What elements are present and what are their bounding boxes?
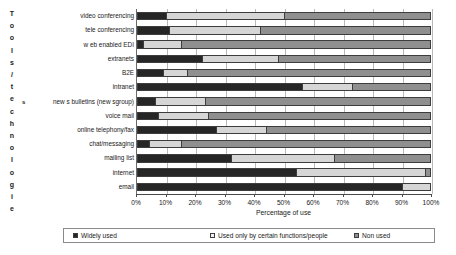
y-axis-title-letter: / <box>11 69 13 81</box>
bar-row <box>137 55 431 63</box>
bar-segment <box>402 183 431 191</box>
bar-segment <box>163 69 187 77</box>
x-axis-tick <box>225 194 226 197</box>
plot-area <box>136 9 431 194</box>
bar-segment <box>181 140 431 148</box>
bar-segment <box>296 168 425 176</box>
bar-row <box>137 69 431 77</box>
y-axis-title-letter: s <box>10 57 14 69</box>
legend-label: Non used <box>362 232 390 239</box>
bar-segment <box>137 183 402 191</box>
x-axis-tick-label: 100% <box>423 199 440 206</box>
x-axis-tick-label: 50% <box>277 199 290 206</box>
legend-swatch-icon <box>354 233 359 238</box>
bar-segment <box>278 55 431 63</box>
bar-segment <box>334 154 431 162</box>
bar-segment <box>202 55 278 63</box>
x-axis-tick <box>431 194 432 197</box>
bar-segment <box>425 168 431 176</box>
bar-row <box>137 140 431 148</box>
y-axis-title-letter: o <box>10 20 14 32</box>
bar-segment <box>166 12 284 20</box>
x-axis-tick-label: 30% <box>218 199 231 206</box>
x-axis-tick <box>284 194 285 197</box>
bar-segment <box>216 126 266 134</box>
y-axis-category-label: voice mail <box>18 112 134 120</box>
bar-segment <box>137 112 158 120</box>
y-axis-category-label: internet <box>18 169 134 177</box>
bar-segment <box>352 83 431 91</box>
bar-row <box>137 26 431 34</box>
bar-segment <box>169 26 260 34</box>
legend-swatch-icon <box>210 233 215 238</box>
bar-segment <box>137 168 296 176</box>
y-axis-title-letter: o <box>10 167 14 179</box>
legend-item: Non used <box>354 232 390 239</box>
bar-row <box>137 168 431 176</box>
bar-segment <box>137 83 302 91</box>
bar-row <box>137 183 431 191</box>
bar-segment <box>137 154 231 162</box>
y-axis-title-letter: l <box>11 154 13 166</box>
y-axis-title-letter: T <box>10 8 14 20</box>
bar-segment <box>266 126 431 134</box>
x-axis-tick <box>372 194 373 197</box>
bar-series-container <box>137 9 431 194</box>
y-axis-title-letter: h <box>10 118 14 130</box>
bar-segment <box>208 112 431 120</box>
bar-segment <box>137 126 216 134</box>
bar-segment <box>181 40 431 48</box>
bar-row <box>137 112 431 120</box>
bar-row <box>137 126 431 134</box>
y-axis-category-label: w eb enabled EDI <box>18 41 134 49</box>
bar-segment <box>158 112 208 120</box>
legend-label: Used only by certain functions/people <box>218 232 328 239</box>
bar-segment <box>143 40 181 48</box>
bar-row <box>137 83 431 91</box>
bar-segment <box>284 12 431 20</box>
y-axis-category-label: tele conferencing <box>18 26 134 34</box>
x-axis-tick-label: 60% <box>306 199 319 206</box>
bar-segment <box>137 140 149 148</box>
y-axis-title: Tools/technologie <box>5 8 19 215</box>
bar-segment <box>137 69 163 77</box>
bar-row <box>137 154 431 162</box>
x-axis-tick-label: 0% <box>131 199 141 206</box>
bar-row <box>137 12 431 20</box>
y-axis-category-label: new s bulletins (new sgroup) <box>18 98 134 106</box>
bar-segment <box>231 154 334 162</box>
stacked-bar-chart: Tools/technologie s video conferencingte… <box>0 0 456 255</box>
bar-segment <box>205 97 431 105</box>
y-axis-title-letter: c <box>10 106 14 118</box>
x-axis-tick-label: 20% <box>188 199 201 206</box>
bar-segment <box>260 26 431 34</box>
x-axis-tick <box>313 194 314 197</box>
bar-segment <box>187 69 431 77</box>
gridline <box>432 9 433 194</box>
y-axis-title-letter: o <box>10 32 14 44</box>
bar-segment <box>137 97 155 105</box>
y-axis-title-letter: g <box>10 179 14 191</box>
x-axis-title: Percentage of use <box>136 209 431 216</box>
y-axis-title-letter: e <box>10 93 14 105</box>
legend-item: Used only by certain functions/people <box>210 232 328 239</box>
y-axis-category-label: video conferencing <box>18 12 134 20</box>
x-axis-tick-label: 90% <box>395 199 408 206</box>
y-axis-category-label: online telephony/fax <box>18 126 134 134</box>
bar-segment <box>137 55 202 63</box>
x-axis-tick <box>136 194 137 197</box>
y-axis-category-label: B2E <box>18 69 134 77</box>
y-axis-category-label: intranet <box>18 83 134 91</box>
y-axis-title-letter: l <box>11 45 13 57</box>
x-axis-tick-label: 40% <box>247 199 260 206</box>
y-axis-title-letter: t <box>11 81 13 93</box>
bar-segment <box>137 12 166 20</box>
bar-segment <box>149 140 181 148</box>
y-axis-title-letter: n <box>10 130 14 142</box>
x-axis-tick <box>166 194 167 197</box>
x-axis-tick <box>195 194 196 197</box>
bar-row <box>137 97 431 105</box>
bar-segment <box>155 97 205 105</box>
y-axis-category-label: mailing list <box>18 154 134 162</box>
legend: Widely usedUsed only by certain function… <box>63 228 435 243</box>
